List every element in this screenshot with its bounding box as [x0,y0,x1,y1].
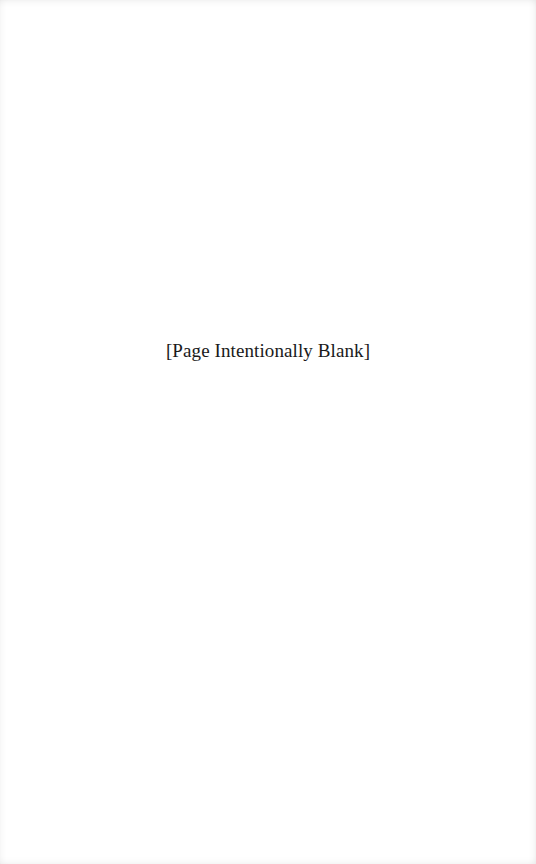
document-page: [Page Intentionally Blank] [0,0,536,864]
blank-page-notice: [Page Intentionally Blank] [0,340,536,362]
